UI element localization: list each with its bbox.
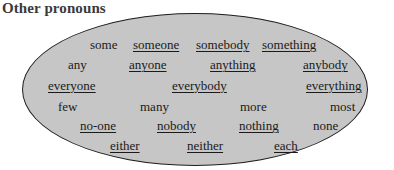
pronoun-few: few bbox=[58, 100, 78, 114]
pronoun-someone: someone bbox=[133, 38, 179, 52]
pronoun-none: none bbox=[313, 119, 338, 133]
pronoun-no-one: no-one bbox=[80, 119, 116, 133]
pronoun-some: some bbox=[90, 38, 117, 52]
pronoun-most: most bbox=[330, 100, 355, 114]
pronoun-everyone: everyone bbox=[48, 79, 96, 93]
pronoun-each: each bbox=[274, 139, 298, 153]
pronoun-nobody: nobody bbox=[157, 119, 196, 133]
pronoun-any: any bbox=[68, 58, 87, 72]
section-title: Other pronouns bbox=[2, 0, 106, 17]
pronoun-anyone: anyone bbox=[129, 58, 167, 72]
pronoun-many: many bbox=[140, 100, 169, 114]
pronoun-everything: everything bbox=[306, 79, 362, 93]
pronoun-anybody: anybody bbox=[303, 58, 348, 72]
pronoun-more: more bbox=[240, 100, 267, 114]
pronoun-neither: neither bbox=[187, 139, 223, 153]
pronoun-somebody: somebody bbox=[196, 38, 249, 52]
pronoun-anything: anything bbox=[210, 58, 256, 72]
pronoun-everybody: everybody bbox=[172, 79, 227, 93]
pronoun-nothing: nothing bbox=[239, 119, 279, 133]
pronoun-either: either bbox=[110, 139, 140, 153]
pronoun-something: something bbox=[262, 38, 316, 52]
